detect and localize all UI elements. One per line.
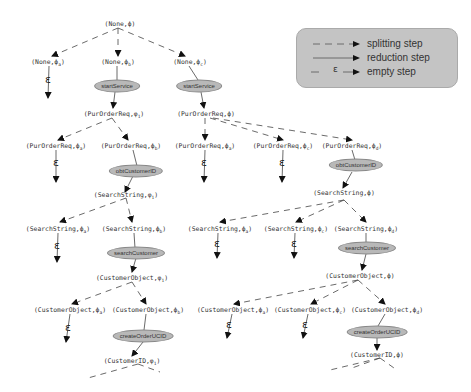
legend-label-reduction: reduction step — [367, 51, 430, 64]
node-searchstring-1: (SearchString,φ1) — [94, 191, 158, 202]
node-searchstring-b1: (SearchString,ϕb) — [102, 225, 166, 236]
operation-search-customer: searchCustomer — [107, 247, 165, 260]
node-customerobject-d2: (CustomerObject,ϕd) — [351, 306, 423, 317]
legend-label-empty: empty step — [367, 65, 416, 78]
operation-start-service: startService — [94, 80, 140, 93]
epsilon-icon: ε — [291, 238, 297, 249]
operation-obt-customer-id: obtCustomerID — [329, 159, 383, 172]
node-none-c: (None,ϕc) — [173, 58, 207, 69]
epsilon-icon: ε — [54, 240, 60, 251]
node-searchstring-d2: (SearchString,ϕd) — [334, 225, 398, 236]
node-none-b: (None,ϕb) — [101, 58, 135, 69]
epsilon-icon: ε — [214, 238, 220, 249]
operation-create-order-ucid: createOrderUCID — [113, 330, 174, 343]
operation-obt-customer-id: obtCustomerID — [109, 165, 163, 178]
node-customerobject-c2: (CustomerObject,ϕc) — [274, 306, 346, 317]
node-customerobject-a1: (CustomerObject,ϕa) — [34, 306, 106, 317]
node-purorderreq-1: (PurOrderReq,φ1) — [84, 110, 144, 121]
node-purorderreq-2: (PurOrderReq,ϕ) — [177, 110, 235, 118]
operation-start-service: startService — [176, 80, 222, 93]
operation-create-order-ucid: createOrderUCID — [347, 326, 408, 339]
epsilon-icon: ε — [65, 322, 71, 333]
epsilon-icon: ε — [279, 157, 285, 168]
operation-search-customer: searchCustomer — [338, 242, 396, 255]
node-customerid-2: (CustomerID,ϕ) — [350, 351, 404, 359]
node-purorderreq-a2: (PurOrderReq,ϕa) — [175, 142, 235, 153]
node-customerid-1: (CustomerID,φ1) — [104, 357, 161, 368]
legend: splitting step reduction step ε empty st… — [296, 28, 458, 88]
legend-row-splitting: splitting step — [297, 37, 457, 51]
node-customerobject-b1: (CustomerObject,ϕb) — [112, 306, 184, 317]
node-searchstring-a1: (SearchString,ϕa) — [26, 225, 90, 236]
node-customerobject-a2: (CustomerObject,ϕa) — [197, 306, 269, 317]
epsilon-icon: ε — [53, 157, 59, 168]
node-customerobject-1: (CustomerObject,φ1) — [96, 274, 168, 285]
node-searchstring-a2: (SearchString,ϕa) — [188, 225, 252, 236]
node-purorderreq-d2: (PurOrderReq,ϕd) — [322, 142, 382, 153]
epsilon-icon: ε — [333, 64, 338, 74]
node-root: (None,ϕ) — [105, 20, 136, 28]
node-searchstring-c2: (SearchString,ϕc) — [264, 225, 328, 236]
node-purorderreq-a1: (PurOrderReq,ϕa) — [26, 142, 86, 153]
epsilon-icon: ε — [226, 319, 232, 330]
legend-label-splitting: splitting step — [367, 37, 423, 50]
legend-row-reduction: reduction step — [297, 51, 457, 65]
epsilon-icon: ε — [45, 74, 51, 85]
dashed-arrow-icon — [297, 37, 367, 51]
solid-arrow-icon — [297, 51, 367, 65]
epsilon-icon: ε — [201, 157, 207, 168]
node-purorderreq-b1: (PurOrderReq,ϕb) — [101, 142, 161, 153]
epsilon-icon: ε — [302, 319, 308, 330]
node-none-a: (None,ϕa) — [31, 58, 65, 69]
node-purorderreq-c2: (PurOrderReq,ϕc) — [253, 142, 313, 153]
node-searchstring-2: (SearchString,ϕ) — [313, 189, 375, 197]
epsilon-arrow-icon — [297, 65, 367, 79]
legend-row-empty: ε empty step — [297, 65, 457, 79]
node-customerobject-2: (CustomerObject,ϕ) — [325, 272, 394, 280]
search-tree-diagram: splitting step reduction step ε empty st… — [0, 0, 471, 392]
